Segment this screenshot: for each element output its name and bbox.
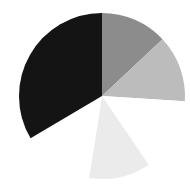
pie-chart bbox=[0, 0, 190, 184]
pie-slices bbox=[19, 13, 185, 179]
